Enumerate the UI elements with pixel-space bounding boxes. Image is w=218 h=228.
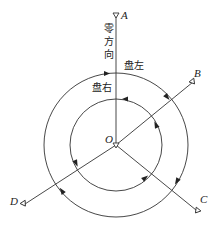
station-label-a: A [121, 10, 128, 21]
zero-direction-label: 零 方 向 [103, 22, 114, 61]
center-label-o: O [105, 134, 113, 145]
ray-ob [116, 82, 193, 145]
station-a-triangle [113, 13, 119, 18]
face-right-label: 盘右 [92, 83, 112, 93]
station-label-d: D [10, 196, 18, 207]
ray-oc [116, 145, 196, 210]
outer-arrow-d [58, 186, 66, 195]
face-left-label: 盘左 [124, 61, 144, 71]
zero-direction-char-1: 零 [103, 22, 114, 35]
zero-direction-char-2: 方 [103, 35, 114, 48]
outer-arrow-top [104, 71, 110, 76]
station-d-triangle [20, 200, 28, 207]
station-label-c: C [200, 194, 207, 205]
zero-direction-char-3: 向 [103, 48, 114, 61]
station-label-b: B [194, 68, 201, 79]
inner-arrow-top [122, 97, 128, 102]
